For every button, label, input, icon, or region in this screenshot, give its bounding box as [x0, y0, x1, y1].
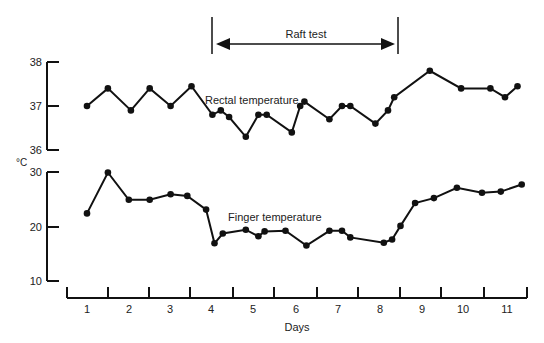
raft-test-label: Raft test [286, 28, 327, 40]
finger-tick-30: 30 [30, 166, 42, 178]
data-point [502, 94, 509, 101]
data-point [518, 181, 525, 188]
arrow-left-icon [216, 38, 230, 50]
data-point [389, 236, 396, 243]
data-point [211, 240, 218, 247]
data-point [412, 200, 419, 207]
data-point [105, 85, 112, 92]
data-point [220, 230, 227, 237]
y-unit-label: °C [16, 157, 27, 168]
rectal-y-axis [47, 62, 59, 150]
rectal-tick-38: 38 [30, 56, 42, 68]
temperature-chart: Raft test 38 37 36 30 20 10 °C [0, 0, 544, 343]
data-point [282, 228, 289, 235]
data-point [326, 228, 333, 235]
data-point [128, 107, 135, 114]
data-point [397, 223, 404, 230]
data-point [339, 103, 346, 110]
data-point [167, 191, 174, 198]
data-point [514, 83, 521, 90]
data-point [427, 68, 434, 75]
data-point [303, 242, 310, 249]
x-tick-5: 5 [250, 303, 256, 315]
data-point [243, 226, 250, 233]
data-point [255, 112, 262, 119]
arrow-right-icon [381, 38, 395, 50]
data-point [126, 197, 133, 204]
data-point [391, 94, 398, 101]
data-point [487, 85, 494, 92]
rectal-tick-37: 37 [30, 100, 42, 112]
rectal-series-label: Rectal temperature [205, 94, 299, 106]
data-point [326, 116, 333, 123]
rectal-tick-36: 36 [30, 144, 42, 156]
data-point [188, 83, 195, 90]
data-point [105, 169, 112, 176]
data-point [479, 189, 486, 196]
finger-tick-20: 20 [30, 221, 42, 233]
x-axis [67, 287, 527, 298]
data-point [454, 185, 461, 192]
data-point [301, 98, 308, 105]
data-point [385, 107, 392, 114]
data-point [347, 234, 354, 241]
x-tick-10: 10 [457, 303, 469, 315]
x-tick-7: 7 [335, 303, 341, 315]
y-tick-labels: 38 37 36 30 20 10 [30, 56, 42, 287]
data-point [372, 120, 379, 127]
data-point [218, 107, 225, 114]
data-point [184, 193, 191, 200]
finger-temperature-series [84, 169, 525, 249]
data-point [84, 210, 91, 217]
x-tick-4: 4 [208, 303, 214, 315]
x-tick-11: 11 [501, 303, 512, 315]
data-point [146, 197, 153, 204]
data-point [431, 195, 438, 202]
data-point [243, 134, 250, 141]
data-point [261, 228, 268, 235]
data-point [146, 85, 153, 92]
data-point [347, 103, 354, 110]
finger-y-axis [47, 172, 59, 281]
data-point [203, 206, 210, 213]
rectal-temperature-series [84, 68, 521, 141]
data-point [226, 114, 233, 121]
data-point [263, 112, 270, 119]
data-point [167, 103, 174, 110]
data-point [339, 228, 346, 235]
x-tick-2: 2 [126, 303, 132, 315]
x-tick-9: 9 [419, 303, 425, 315]
series-line [87, 173, 522, 246]
x-axis-title: Days [284, 321, 310, 333]
finger-series-label: Finger temperature [228, 211, 322, 223]
x-tick-6: 6 [293, 303, 299, 315]
finger-tick-10: 10 [30, 275, 42, 287]
data-point [289, 129, 296, 136]
data-point [255, 233, 262, 240]
data-point [381, 240, 388, 247]
x-tick-8: 8 [377, 303, 383, 315]
x-tick-1: 1 [84, 303, 90, 315]
data-point [84, 103, 91, 110]
x-tick-3: 3 [167, 303, 173, 315]
x-tick-labels: 1 2 3 4 5 6 7 8 9 10 11 [84, 303, 513, 315]
raft-test-annotation: Raft test [212, 17, 398, 54]
data-point [498, 188, 505, 195]
data-point [458, 85, 465, 92]
data-point [209, 112, 216, 119]
